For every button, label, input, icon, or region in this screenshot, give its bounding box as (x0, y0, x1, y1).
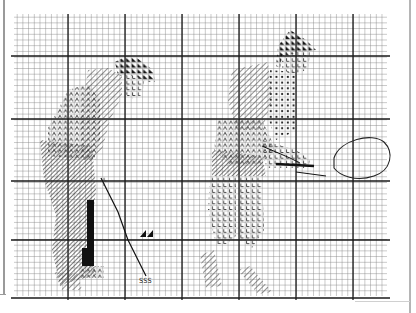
golfer-shoes (80, 266, 104, 278)
tennis-chest (268, 70, 298, 140)
golf-bag-base (82, 248, 94, 266)
tennis-back (228, 62, 272, 130)
golfer-hands (100, 176, 108, 186)
club-head-label: SSS (139, 277, 152, 285)
cross-stitch-chart: SSS (0, 0, 416, 313)
golf-bag (87, 200, 94, 256)
